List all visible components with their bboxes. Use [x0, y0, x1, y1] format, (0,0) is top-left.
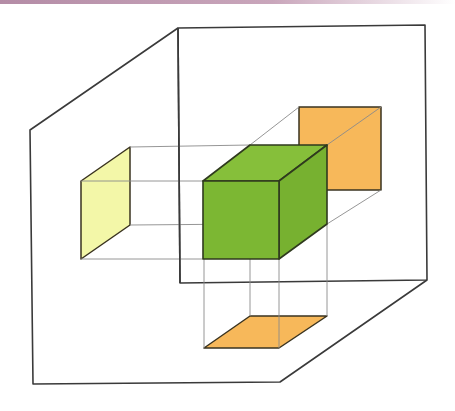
- projection-diagram: [0, 0, 455, 411]
- cube-front-face: [203, 181, 279, 259]
- green-cube: [203, 145, 327, 259]
- back-plane-left-edge: [178, 28, 180, 283]
- side-projection-panel: [81, 147, 130, 259]
- bottom-projection-panel: [204, 316, 327, 348]
- banner-band: [0, 0, 455, 4]
